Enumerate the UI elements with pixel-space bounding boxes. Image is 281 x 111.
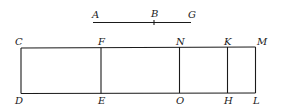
label-f: F (97, 36, 106, 47)
label-c: C (15, 36, 23, 47)
rectangle-cdlm: C F N K M D E O H L (14, 36, 268, 106)
label-o: O (176, 95, 184, 106)
label-h: H (223, 95, 233, 106)
label-k: K (223, 36, 232, 47)
label-g: G (188, 9, 196, 20)
label-d: D (14, 95, 23, 106)
label-e: E (97, 95, 106, 106)
label-a: A (91, 9, 99, 20)
label-n: N (175, 36, 186, 47)
segment-ag: A B G (91, 8, 196, 25)
label-l: L (252, 95, 260, 106)
label-b: B (150, 8, 158, 19)
label-m: M (256, 36, 268, 47)
geometry-diagram: A B G C F N K M D E O H L (0, 0, 281, 111)
